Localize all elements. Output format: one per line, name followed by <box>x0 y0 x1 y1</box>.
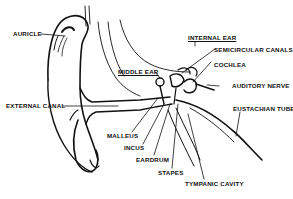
leader-tympanic <box>188 114 204 179</box>
label-middle-ear: MIDDLE EAR <box>118 69 159 75</box>
label-stapes: STAPES <box>158 170 184 176</box>
label-eardrum: EARDRUM <box>136 157 169 163</box>
leader-incus <box>143 104 164 144</box>
leader-cochlea <box>193 62 211 82</box>
label-external-canal: EXTERNAL CANAL <box>6 103 65 109</box>
leader-stapes <box>172 104 178 168</box>
label-internal-ear: INTERNAL EAR <box>188 35 236 41</box>
leader-semicircular <box>182 49 215 73</box>
cochlea-shape <box>184 79 196 93</box>
auricle-outline <box>48 16 98 160</box>
leader-malleus <box>132 98 158 132</box>
incus-shape <box>170 74 184 87</box>
leader-auditory-nerve <box>207 85 219 86</box>
label-cochlea: COCHLEA <box>214 62 246 68</box>
label-semicircular-canals: SEMICIRCULAR CANALS <box>214 47 293 53</box>
label-auricle: AURICLE <box>13 31 42 37</box>
label-tympanic-cavity: TYMPANIC CAVITY <box>185 181 244 187</box>
label-malleus: MALLEUS <box>107 133 138 139</box>
label-incus: INCUS <box>124 145 144 151</box>
leader-eustachian <box>236 112 240 136</box>
auricle-outer-back <box>48 80 92 172</box>
helix-inner <box>62 27 74 32</box>
ear-anatomy-diagram <box>0 0 293 199</box>
malleus-shape <box>156 78 164 86</box>
auditory-nerve <box>196 84 214 90</box>
label-auditory-nerve: AUDITORY NERVE <box>232 83 290 89</box>
label-eustachian-tube: EUSTACHIAN TUBE <box>233 106 293 112</box>
leader-eardrum <box>154 104 170 155</box>
